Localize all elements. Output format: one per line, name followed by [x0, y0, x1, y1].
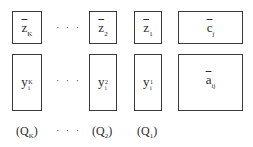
- y-K-symbol: yKi: [21, 75, 32, 89]
- z-2-box: z2: [89, 11, 117, 44]
- a-ij-box: aij: [178, 54, 243, 111]
- a-ij-symbol: aij: [206, 73, 216, 86]
- label-ellipsis: · · ·: [56, 125, 81, 136]
- label-Q-2: (Q2): [92, 124, 112, 139]
- y-2-box: y2i: [89, 54, 117, 111]
- z-2-symbol: z2: [98, 21, 107, 34]
- y-1-box: y1i: [134, 54, 162, 111]
- z-1-symbol: z1: [143, 21, 152, 34]
- y-K-box: yKi: [12, 54, 42, 111]
- y-1-symbol: y1i: [143, 75, 153, 89]
- c-j-symbol: cj: [207, 21, 215, 34]
- top-ellipsis: · · ·: [56, 22, 81, 33]
- bottom-ellipsis: · · ·: [56, 75, 81, 86]
- label-Q-K: (QK): [16, 124, 38, 139]
- z-K-box: zK: [12, 11, 42, 44]
- label-Q-1: (Q1): [137, 124, 157, 139]
- c-j-box: cj: [178, 11, 243, 44]
- y-2-symbol: y2i: [98, 75, 108, 89]
- z-1-box: z1: [134, 11, 162, 44]
- z-K-symbol: zK: [22, 21, 33, 34]
